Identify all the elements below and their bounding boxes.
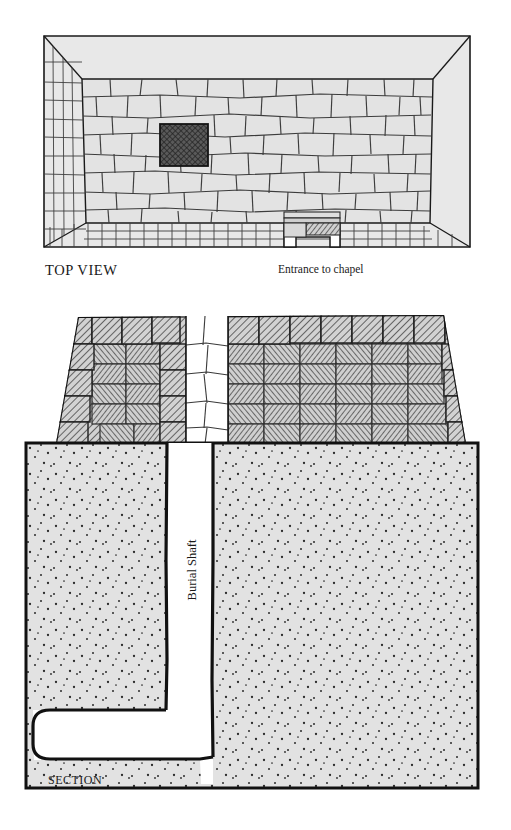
top-view-label: TOP VIEW	[45, 262, 118, 278]
section-panel: Burial Shaft SECTION	[26, 310, 478, 788]
mastaba-inner-opening	[82, 79, 433, 223]
burial-shaft-opening	[160, 124, 208, 166]
casing-course-top	[62, 315, 473, 345]
shaft-plug-blocks	[186, 316, 228, 444]
top-view-panel: TOP VIEW Entrance to chapel	[44, 36, 470, 278]
diagram-canvas: TOP VIEW Entrance to chapel	[0, 0, 511, 830]
burial-shaft-label: Burial Shaft	[185, 539, 199, 600]
entrance-to-chapel-label: Entrance to chapel	[278, 263, 364, 276]
mastaba-figure: TOP VIEW Entrance to chapel	[0, 0, 511, 830]
mastaba-superstructure	[50, 310, 478, 450]
section-label: SECTION	[48, 773, 102, 787]
